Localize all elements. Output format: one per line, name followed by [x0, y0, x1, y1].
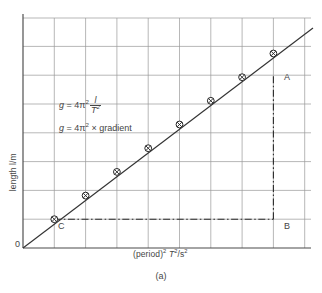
formula-annotation-block: g = 4π2lT2 g = 4π2 × gradient: [59, 96, 132, 133]
x-axis-label: (period)2 T2/s2: [133, 250, 188, 259]
data-points: [51, 50, 277, 223]
best-fit-line: [23, 28, 313, 248]
data-point-marker: [145, 145, 152, 152]
data-point-marker: [270, 50, 277, 57]
point-b-label: B: [284, 222, 290, 231]
point-c-label: C: [58, 222, 65, 231]
fraction-l-over-T-squared: lT2: [90, 96, 101, 116]
formula-g-equals-4pi2-l-over-T2: g = 4π2lT2: [59, 96, 132, 116]
figure-container: length l/m (period)2 T2/s2 0 A B C g = 4…: [0, 0, 322, 293]
data-point-marker: [207, 97, 214, 104]
figure-caption: (a): [0, 271, 322, 281]
data-point-marker: [82, 192, 89, 199]
data-point-marker: [239, 74, 246, 81]
y-axis-label: length l/m: [9, 137, 18, 207]
x-label-unit-exponent: 2: [184, 248, 187, 254]
data-point-marker: [176, 121, 183, 128]
formula-g-equals-4pi2-times-gradient: g = 4π2 × gradient: [59, 123, 132, 133]
point-a-label: A: [284, 73, 290, 82]
origin-label: 0: [15, 240, 20, 249]
data-point-marker: [51, 216, 58, 223]
data-point-marker: [114, 169, 121, 176]
